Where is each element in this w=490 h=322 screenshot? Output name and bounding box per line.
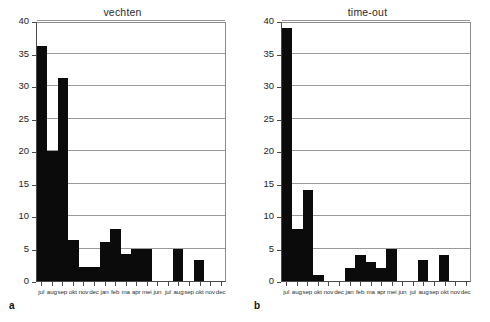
bar-slot[interactable] — [407, 23, 417, 281]
bar-slot[interactable] — [47, 23, 57, 281]
bar-aug-13[interactable] — [418, 260, 428, 281]
x-tick-mark — [189, 282, 190, 286]
bar-slot[interactable] — [334, 23, 344, 281]
x-tick-nov-4: nov — [78, 282, 89, 304]
panel-b-bar-series — [282, 23, 470, 281]
x-tick-mark — [157, 282, 158, 286]
x-tick-mark — [115, 282, 116, 286]
bar-slot[interactable] — [386, 23, 396, 281]
bar-slot[interactable] — [345, 23, 355, 281]
x-tick-label: jul — [165, 288, 171, 295]
x-tick-label: aug — [173, 288, 183, 295]
x-tick-label: sep — [303, 288, 313, 295]
x-tick-label: apr — [377, 288, 386, 295]
x-tick-label: okt — [69, 288, 77, 295]
bar-slot[interactable] — [282, 23, 292, 281]
bar-slot[interactable] — [366, 23, 376, 281]
bar-slot[interactable] — [183, 23, 193, 281]
panel-b: time-out 0510152025303540 julaugsepoktno… — [245, 0, 490, 322]
x-tick-mark — [455, 282, 456, 286]
bar-slot[interactable] — [100, 23, 110, 281]
bar-jul-0[interactable] — [282, 28, 292, 282]
x-tick-mark — [94, 282, 95, 286]
bar-slot[interactable] — [459, 23, 469, 281]
bar-slot[interactable] — [58, 23, 68, 281]
bar-slot[interactable] — [110, 23, 120, 281]
bar-aug-1[interactable] — [47, 151, 57, 281]
bar-slot[interactable] — [152, 23, 162, 281]
bar-slot[interactable] — [428, 23, 438, 281]
bar-aug-1[interactable] — [292, 229, 302, 281]
x-tick-mark — [328, 282, 329, 286]
x-tick-jul-12: jul — [408, 282, 419, 304]
bar-ma-8[interactable] — [366, 262, 376, 282]
bar-slot[interactable] — [355, 23, 365, 281]
bar-slot[interactable] — [397, 23, 407, 281]
bar-jan-6[interactable] — [345, 268, 355, 281]
bar-slot[interactable] — [79, 23, 89, 281]
y-tick-label: 35 — [18, 48, 29, 59]
x-tick-label: okt — [196, 288, 204, 295]
bar-apr-9[interactable] — [376, 268, 386, 281]
x-tick-dec-17: dec — [215, 282, 226, 304]
bar-slot[interactable] — [303, 23, 313, 281]
x-tick-mei-10: mei — [387, 282, 398, 304]
panel-a-plot-area — [36, 22, 226, 282]
bar-slot[interactable] — [214, 23, 224, 281]
x-tick-mark — [178, 282, 179, 286]
bar-slot[interactable] — [37, 23, 47, 281]
x-tick-apr-9: apr — [376, 282, 387, 304]
bar-feb-7[interactable] — [355, 255, 365, 281]
bar-slot[interactable] — [449, 23, 459, 281]
bar-apr-9[interactable] — [131, 249, 141, 282]
bar-slot[interactable] — [121, 23, 131, 281]
panel-a-x-axis: julaugsepoktnovdecjanfebmaaprmeijunjulau… — [36, 282, 226, 304]
bar-slot[interactable] — [439, 23, 449, 281]
bar-slot[interactable] — [194, 23, 204, 281]
bar-sep-2[interactable] — [58, 78, 68, 281]
x-tick-jul-0: jul — [36, 282, 47, 304]
y-tick-label: 30 — [18, 80, 29, 91]
panel-b-x-axis: julaugsepoktnovdecjanfebmaaprmeijunjulau… — [281, 282, 471, 304]
bar-slot[interactable] — [204, 23, 214, 281]
bar-ma-8[interactable] — [121, 254, 131, 281]
y-tick-label: 15 — [263, 178, 274, 189]
bar-slot[interactable] — [324, 23, 334, 281]
x-tick-label: jun — [398, 288, 406, 295]
bar-dec-5[interactable] — [89, 267, 99, 281]
bar-mei-10[interactable] — [386, 249, 396, 282]
bar-slot[interactable] — [418, 23, 428, 281]
x-tick-mark — [41, 282, 42, 286]
bar-slot[interactable] — [68, 23, 78, 281]
bar-okt-3[interactable] — [68, 240, 78, 281]
bar-sep-2[interactable] — [303, 190, 313, 281]
panel-b-title: time-out — [245, 6, 490, 18]
bar-jul-0[interactable] — [37, 46, 47, 281]
bar-slot[interactable] — [162, 23, 172, 281]
bar-okt-15[interactable] — [439, 255, 449, 281]
bar-slot[interactable] — [173, 23, 183, 281]
bar-nov-4[interactable] — [79, 267, 89, 281]
x-tick-label: dec — [89, 288, 99, 295]
x-tick-mark — [307, 282, 308, 286]
x-tick-mark — [445, 282, 446, 286]
bar-okt-15[interactable] — [194, 260, 204, 281]
bar-jan-6[interactable] — [100, 242, 110, 281]
bar-slot[interactable] — [131, 23, 141, 281]
x-tick-jun-11: jun — [397, 282, 408, 304]
bar-feb-7[interactable] — [110, 229, 120, 281]
bar-slot[interactable] — [313, 23, 323, 281]
x-tick-label: aug — [292, 288, 302, 295]
x-tick-okt-15: okt — [194, 282, 205, 304]
bar-okt-3[interactable] — [313, 275, 323, 282]
x-tick-label: jul — [283, 288, 289, 295]
bar-slot[interactable] — [376, 23, 386, 281]
x-tick-mark — [434, 282, 435, 286]
bar-mei-10[interactable] — [141, 249, 151, 282]
bar-slot[interactable] — [89, 23, 99, 281]
bar-slot[interactable] — [292, 23, 302, 281]
gridline-40 — [37, 20, 225, 21]
bar-slot[interactable] — [141, 23, 151, 281]
y-tick-label: 10 — [18, 210, 29, 221]
bar-aug-13[interactable] — [173, 249, 183, 282]
